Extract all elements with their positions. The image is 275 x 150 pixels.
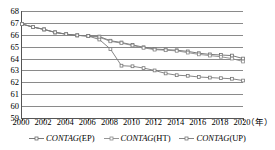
data-point bbox=[208, 76, 211, 79]
y-axis-tick-label: 66 bbox=[1, 31, 19, 40]
data-point bbox=[142, 67, 145, 70]
legend-marker-icon bbox=[179, 135, 194, 142]
x-axis-tick-label: 2006 bbox=[79, 118, 96, 127]
y-axis-tick-label: 63 bbox=[1, 66, 19, 75]
data-point bbox=[175, 49, 178, 52]
data-point bbox=[76, 34, 79, 37]
y-axis-tick-label: 61 bbox=[1, 90, 19, 99]
data-point bbox=[164, 72, 167, 75]
y-axis-tick-label: 62 bbox=[1, 78, 19, 87]
legend-label: CONTAG(UP) bbox=[196, 134, 245, 143]
data-point bbox=[220, 55, 223, 58]
data-point bbox=[231, 54, 234, 57]
series-contagup bbox=[21, 23, 245, 82]
y-axis-tick-label: 67 bbox=[1, 19, 19, 28]
x-axis-tick-label: 2008 bbox=[101, 118, 118, 127]
x-axis-tick-label: 2012 bbox=[145, 118, 162, 127]
x-axis-labels: 2000200220042006200820102012201420162018… bbox=[0, 118, 275, 130]
x-axis-tick-label: 2018 bbox=[211, 118, 228, 127]
data-point bbox=[175, 74, 178, 77]
legend-item-up[interactable]: CONTAG(UP) bbox=[179, 134, 245, 143]
data-point bbox=[109, 40, 112, 43]
y-axis-tick-label: 64 bbox=[1, 55, 19, 64]
data-point bbox=[120, 64, 123, 67]
data-point bbox=[153, 48, 156, 51]
series-layer bbox=[22, 11, 243, 118]
x-axis-tick-label: 2010 bbox=[123, 118, 140, 127]
x-axis-tick-label: 2002 bbox=[35, 118, 52, 127]
data-point bbox=[242, 57, 245, 60]
data-point bbox=[197, 53, 200, 56]
data-point bbox=[220, 77, 223, 80]
data-point bbox=[21, 23, 24, 26]
data-point bbox=[65, 33, 68, 36]
data-point bbox=[98, 38, 101, 41]
legend-marker-icon bbox=[29, 135, 44, 142]
legend-marker-icon bbox=[104, 135, 119, 142]
data-point bbox=[242, 79, 245, 82]
data-point bbox=[32, 26, 35, 29]
y-axis-tick-label: 68 bbox=[1, 7, 19, 16]
y-axis-labels: 59606162636465666768 bbox=[0, 0, 19, 130]
series-contaght bbox=[21, 23, 245, 63]
x-axis-tick-label: 2016 bbox=[189, 118, 206, 127]
data-point bbox=[54, 31, 57, 34]
legend-label: CONTAG(EP) bbox=[46, 134, 95, 143]
data-point bbox=[231, 57, 234, 60]
data-point bbox=[131, 44, 134, 47]
data-point bbox=[87, 35, 90, 38]
x-axis-tick-label: 2004 bbox=[57, 118, 74, 127]
contag-line-chart: 59606162636465666768 2000200220042006200… bbox=[0, 0, 275, 150]
y-axis-tick-label: 60 bbox=[1, 102, 19, 111]
legend-item-ep[interactable]: CONTAG(EP) bbox=[29, 134, 95, 143]
legend-label: CONTAG(HT) bbox=[121, 134, 171, 143]
data-point bbox=[186, 74, 189, 77]
x-axis-tick-label: 2014 bbox=[167, 118, 184, 127]
data-point bbox=[43, 28, 46, 31]
x-axis-tick-label: 2000 bbox=[13, 118, 30, 127]
legend-item-ht[interactable]: CONTAG(HT) bbox=[104, 134, 171, 143]
data-point bbox=[242, 60, 245, 63]
plot-area bbox=[21, 11, 243, 119]
data-point bbox=[197, 76, 200, 79]
data-point bbox=[131, 65, 134, 68]
data-point bbox=[164, 49, 167, 52]
data-point bbox=[208, 54, 211, 57]
data-point bbox=[186, 51, 189, 54]
data-point bbox=[231, 77, 234, 80]
data-point bbox=[153, 69, 156, 72]
chart-legend: CONTAG(EP)CONTAG(HT)CONTAG(UP) bbox=[0, 131, 275, 145]
y-axis-tick-label: 65 bbox=[1, 43, 19, 52]
data-point bbox=[142, 46, 145, 49]
data-point bbox=[120, 42, 123, 45]
x-axis-unit-label: （年） bbox=[246, 118, 273, 127]
data-point bbox=[109, 48, 112, 51]
